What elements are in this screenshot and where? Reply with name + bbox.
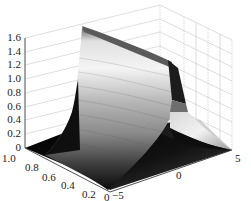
t-tick: 0.2 bbox=[82, 188, 96, 200]
z-tick: 0.4 bbox=[7, 113, 21, 125]
z-tick: 1.4 bbox=[7, 45, 21, 57]
z-tick: 1.0 bbox=[7, 72, 21, 84]
z-tick: 0.6 bbox=[7, 100, 21, 112]
z-axis-ticks: 1.6 1.4 1.2 1.0 0.8 0.6 0.4 0.2 0 bbox=[7, 31, 21, 153]
surface-plot: 1.6 1.4 1.2 1.0 0.8 0.6 0.4 0.2 0 1.0 0.… bbox=[0, 0, 251, 201]
x-tick: 0 bbox=[176, 169, 182, 181]
z-tick: 0.2 bbox=[7, 127, 21, 139]
t-tick: 1.0 bbox=[2, 152, 16, 164]
x-tick: 5 bbox=[235, 152, 241, 164]
t-tick: 0.4 bbox=[61, 179, 75, 191]
t-tick: 0 bbox=[104, 191, 110, 201]
t-tick: 0.8 bbox=[25, 161, 39, 173]
z-tick: 0 bbox=[16, 141, 22, 153]
z-tick: 0.8 bbox=[7, 86, 21, 98]
z-tick: 1.2 bbox=[7, 58, 21, 70]
x-tick: −5 bbox=[112, 189, 124, 201]
t-tick: 0.6 bbox=[42, 171, 56, 183]
z-tick: 1.6 bbox=[7, 31, 21, 43]
